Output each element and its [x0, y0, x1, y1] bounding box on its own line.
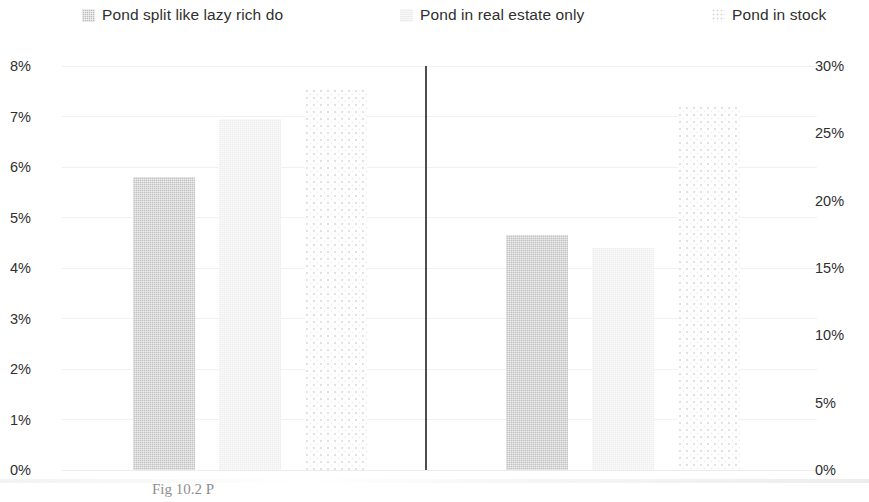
bar[interactable]: [133, 177, 195, 470]
checkered-gray-square-icon: [82, 9, 95, 22]
right-axis-tick-label: 0%: [815, 463, 865, 478]
gridline: [62, 66, 817, 67]
bar-chart: 0%1%2%3%4%5%6%7%8% 0%5%10%15%20%25%30%: [0, 34, 869, 479]
left-axis-tick-label: 3%: [10, 312, 56, 327]
group-divider-line: [425, 66, 427, 470]
right-axis-tick-label: 20%: [815, 194, 865, 209]
legend-item-pond-split-like-lazy-rich-do[interactable]: Pond split like lazy rich do: [82, 6, 283, 24]
left-axis-tick-label: 5%: [10, 211, 56, 226]
legend-item-label: Pond in stock: [732, 6, 826, 24]
scan-artifact: [0, 479, 869, 483]
left-axis-tick-label: 0%: [10, 463, 56, 478]
plot-area: 0%1%2%3%4%5%6%7%8% 0%5%10%15%20%25%30%: [62, 66, 809, 470]
right-axis-tick-label: 30%: [815, 59, 865, 74]
light-gray-square-icon: [400, 9, 413, 22]
bar[interactable]: [219, 119, 281, 470]
bar[interactable]: [678, 106, 740, 470]
right-axis-tick-label: 5%: [815, 396, 865, 411]
left-axis-tick-label: 1%: [10, 413, 56, 428]
left-axis-tick-label: 8%: [10, 59, 56, 74]
left-axis-tick-label: 7%: [10, 110, 56, 125]
legend-item-pond-in-real-estate-only[interactable]: Pond in real estate only: [400, 6, 584, 24]
left-axis-tick-label: 4%: [10, 261, 56, 276]
bar[interactable]: [506, 235, 568, 470]
left-axis-tick-label: 2%: [10, 362, 56, 377]
figure-caption-text: Fig 10.2 P: [152, 481, 214, 498]
chart-legend: Pond split like lazy rich do Pond in rea…: [0, 0, 869, 34]
figure-caption: Fig 10.2 P: [0, 479, 869, 502]
legend-item-label: Pond in real estate only: [420, 6, 584, 24]
bar[interactable]: [592, 248, 654, 470]
legend-item-label: Pond split like lazy rich do: [102, 6, 283, 24]
left-axis-tick-label: 6%: [10, 160, 56, 175]
right-axis-tick-label: 15%: [815, 261, 865, 276]
bar[interactable]: [305, 89, 367, 470]
legend-item-pond-in-stock[interactable]: Pond in stock: [712, 6, 826, 24]
right-axis-tick-label: 25%: [815, 126, 865, 141]
right-axis-tick-label: 10%: [815, 328, 865, 343]
dotted-square-icon: [712, 9, 725, 22]
